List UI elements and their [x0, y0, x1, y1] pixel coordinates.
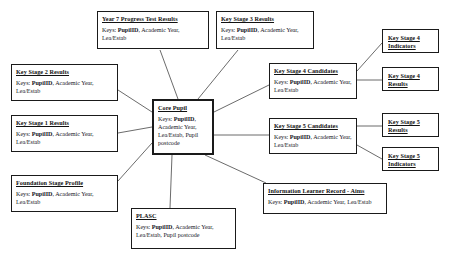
edge-core-pupil-to-year-7-progress-test-results: [160, 50, 178, 99]
keys-prefix-plasc: Keys:: [136, 224, 152, 230]
keys-bold-key-stage-4-candidates: PupilID: [290, 79, 311, 85]
node-title-key-stage-4-results: Key Stage 4 Results: [388, 72, 433, 88]
node-title-key-stage-3-results: Key Stage 3 Results: [221, 15, 309, 23]
node-title-key-stage-5-results: Key Stage 5 Results: [388, 118, 433, 134]
keys-prefix-key-stage-3-results: Keys:: [221, 27, 237, 33]
node-key-stage-3-results[interactable]: Key Stage 3 ResultsKeys: PupilID, Academ…: [216, 11, 314, 49]
keys-prefix-key-stage-4-candidates: Keys:: [274, 79, 290, 85]
edge-core-pupil-to-information-learner-record-aims: [205, 155, 266, 183]
node-title-key-stage-5-candidates: Key Stage 5 Candidates: [274, 122, 352, 130]
node-title-key-stage-1-results: Key Stage 1 Results: [16, 119, 113, 127]
node-keys-key-stage-4-candidates: Keys: PupilID, Academic Year, Lea/Estab: [274, 78, 352, 94]
node-key-stage-5-results[interactable]: Key Stage 5 Results: [382, 113, 439, 137]
keys-bold-plasc: PupilID: [152, 224, 173, 230]
edge-core-pupil-to-plasc: [170, 155, 172, 208]
keys-prefix-year-7-progress-test-results: Keys:: [102, 27, 118, 33]
node-keys-foundation-stage-profile: Keys: PupilID, Academic Year, Lea/Estab: [16, 190, 113, 206]
keys-prefix-foundation-stage-profile: Keys:: [16, 191, 32, 197]
node-year-7-progress-test-results[interactable]: Year 7 Progress Test ResultsKeys: PupilI…: [97, 11, 209, 49]
node-title-foundation-stage-profile: Foundation Stage Profile: [16, 179, 113, 187]
keys-bold-year-7-progress-test-results: PupilID: [118, 27, 139, 33]
node-title-key-stage-4-indicators: Key Stage 4 Indicators: [388, 34, 433, 50]
edge-core-pupil-to-key-stage-3-results: [198, 50, 238, 99]
node-keys-key-stage-5-candidates: Keys: PupilID, Academic Year, Lea/Estab: [274, 133, 352, 149]
node-keys-key-stage-3-results: Keys: PupilID, Academic Year, Lea/Estab: [221, 26, 309, 42]
node-key-stage-5-candidates[interactable]: Key Stage 5 CandidatesKeys: PupilID, Aca…: [269, 118, 357, 154]
keys-bold-key-stage-1-results: PupilID: [32, 131, 53, 137]
edge-core-pupil-to-key-stage-4-candidates: [214, 85, 269, 112]
node-title-key-stage-5-indicators: Key Stage 5 Indicators: [388, 152, 433, 168]
keys-bold-key-stage-3-results: PupilID: [237, 27, 258, 33]
node-key-stage-2-results[interactable]: Key Stage 2 ResultsKeys: PupilID, Academ…: [11, 64, 118, 101]
node-keys-key-stage-2-results: Keys: PupilID, Academic Year, Lea/Estab: [16, 79, 113, 95]
edge-key-stage-4-candidates-to-key-stage-4-indicators: [357, 43, 382, 71]
keys-bold-core-pupil: PupilID: [174, 116, 195, 122]
keys-prefix-key-stage-2-results: Keys:: [16, 80, 32, 86]
node-keys-core-pupil: Keys: PupilID, Academic Year, Lea/Estab,…: [158, 115, 208, 148]
node-keys-year-7-progress-test-results: Keys: PupilID, Academic Year, Lea/Estab: [102, 26, 204, 42]
node-keys-plasc: Keys: PupilID, Academic Year, Lea/Estab,…: [136, 223, 231, 239]
node-title-core-pupil: Core Pupil: [158, 104, 208, 112]
node-keys-information-learner-record-aims: Keys: PupilID, Academic Year, Lea/Estab: [268, 198, 382, 206]
node-key-stage-4-candidates[interactable]: Key Stage 4 CandidatesKeys: PupilID, Aca…: [269, 63, 357, 99]
node-title-information-learner-record-aims: Information Learner Record - Aims: [268, 187, 382, 195]
node-key-stage-1-results[interactable]: Key Stage 1 ResultsKeys: PupilID, Academ…: [11, 115, 118, 152]
keys-bold-foundation-stage-profile: PupilID: [32, 191, 53, 197]
node-plasc[interactable]: PLASCKeys: PupilID, Academic Year, Lea/E…: [131, 208, 236, 249]
keys-bold-information-learner-record-aims: PupilID: [284, 199, 305, 205]
keys-prefix-key-stage-5-candidates: Keys:: [274, 134, 290, 140]
node-title-key-stage-2-results: Key Stage 2 Results: [16, 68, 113, 76]
keys-bold-key-stage-2-results: PupilID: [32, 80, 53, 86]
node-key-stage-5-indicators[interactable]: Key Stage 5 Indicators: [382, 147, 439, 171]
node-information-learner-record-aims[interactable]: Information Learner Record - AimsKeys: P…: [263, 183, 387, 214]
keys-prefix-information-learner-record-aims: Keys:: [268, 199, 284, 205]
diagram-canvas: Core PupilKeys: PupilID, Academic Year, …: [0, 0, 449, 257]
edge-core-pupil-to-key-stage-2-results: [118, 90, 152, 112]
node-title-key-stage-4-candidates: Key Stage 4 Candidates: [274, 67, 352, 75]
node-foundation-stage-profile[interactable]: Foundation Stage ProfileKeys: PupilID, A…: [11, 175, 118, 212]
node-key-stage-4-indicators[interactable]: Key Stage 4 Indicators: [382, 29, 439, 53]
node-title-plasc: PLASC: [136, 212, 231, 220]
node-core-pupil[interactable]: Core PupilKeys: PupilID, Academic Year, …: [152, 99, 214, 155]
edge-core-pupil-to-key-stage-1-results: [118, 127, 152, 133]
keys-prefix-core-pupil: Keys:: [158, 116, 174, 122]
node-keys-key-stage-1-results: Keys: PupilID, Academic Year, Lea/Estab: [16, 130, 113, 146]
keys-bold-key-stage-5-candidates: PupilID: [290, 134, 311, 140]
edge-key-stage-5-candidates-to-key-stage-5-indicators: [357, 145, 382, 159]
node-title-year-7-progress-test-results: Year 7 Progress Test Results: [102, 15, 204, 23]
keys-prefix-key-stage-1-results: Keys:: [16, 131, 32, 137]
edge-core-pupil-to-foundation-stage-profile: [118, 143, 152, 181]
node-key-stage-4-results[interactable]: Key Stage 4 Results: [382, 67, 439, 91]
keys-rest-information-learner-record-aims: , Academic Year, Lea/Estab: [304, 199, 371, 205]
